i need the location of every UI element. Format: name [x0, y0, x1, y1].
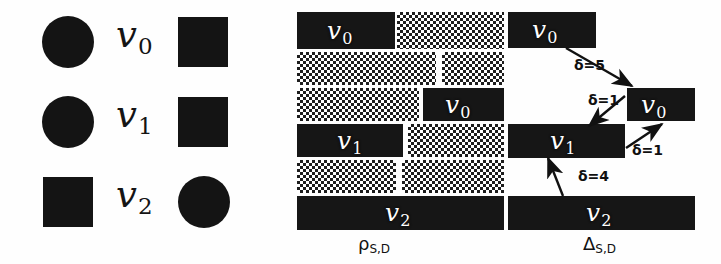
bar-label-text: v	[550, 126, 564, 155]
bar-label-subscript: 2	[400, 211, 410, 230]
rho-bar-segment	[397, 12, 504, 49]
delta-label-arrow-v1-to-v0right: δ=1	[632, 142, 663, 158]
rho-caption-symbol: ρ	[358, 233, 369, 254]
legend-item-label: v1	[116, 96, 153, 138]
bar-label-text: v	[385, 198, 399, 227]
rho-bar-segment	[297, 52, 436, 85]
arrow-v2-to-v1	[548, 158, 563, 196]
bar-label-text: v	[532, 15, 546, 44]
delta-bar-v0-right: v0	[627, 88, 695, 121]
bar-label: v0	[641, 92, 666, 121]
rho-bar-segment	[442, 52, 504, 85]
bar-label: v0	[532, 17, 557, 46]
bar-label-text: v	[586, 198, 600, 227]
delta-caption-subscript: S,D	[595, 242, 616, 256]
delta-label-arrow-v0right-to-v1: δ=1	[588, 92, 619, 108]
figure-root: v0 v1 v2 v0 v0 v1	[0, 0, 721, 264]
delta-label-arrow-v0top-to-v0right: δ=5	[574, 57, 605, 73]
rho-caption-subscript: S,D	[369, 242, 390, 256]
bar-label-text: v	[641, 90, 655, 119]
rho-bar-segment	[408, 124, 504, 157]
bar-label: v2	[586, 200, 611, 229]
bar-label-subscript: 1	[565, 139, 575, 158]
bar-label-subscript: 0	[342, 29, 352, 48]
rho-bar-segment: v0	[297, 12, 395, 49]
legend-label-text: v	[116, 13, 137, 56]
delta-caption-symbol: Δ	[583, 233, 595, 254]
legend-row: v1	[0, 88, 250, 162]
rho-bar-segment: v2	[297, 196, 504, 230]
legend-row: v2	[0, 168, 250, 242]
bar-label-text: v	[337, 126, 351, 155]
bar-label-subscript: 0	[656, 103, 666, 122]
delta-bar-v1-middle: v1	[508, 124, 625, 158]
legend-label-subscript: 0	[138, 33, 153, 59]
filled-square-icon	[178, 97, 228, 147]
bar-label: v1	[337, 128, 362, 157]
legend-label-subscript: 2	[138, 193, 153, 219]
delta-label-arrow-v2-to-v1: δ=4	[578, 168, 609, 184]
bar-label: v0	[327, 18, 352, 47]
filled-circle-icon	[42, 16, 94, 68]
vertex-shape-legend-panel: v0 v1 v2	[0, 0, 250, 264]
bar-label: v1	[550, 128, 575, 157]
rho-s-d-caption: ρS,D	[358, 233, 390, 256]
bar-label: v0	[445, 92, 470, 121]
legend-label-subscript: 1	[138, 113, 153, 139]
delta-bar-v0-top: v0	[508, 12, 596, 48]
rho-bar-segment	[297, 88, 419, 121]
bar-label-text: v	[445, 90, 459, 119]
bar-label-subscript: 2	[601, 211, 611, 230]
delta-s-d-caption: ΔS,D	[583, 233, 616, 256]
delta-bar-v2-bottom: v2	[508, 196, 695, 230]
filled-square-icon	[178, 17, 228, 67]
filled-circle-icon	[42, 96, 94, 148]
rho-bar-segment: v0	[423, 88, 504, 121]
filled-circle-icon	[178, 176, 230, 228]
legend-row: v0	[0, 8, 250, 82]
legend-item-label: v0	[116, 16, 153, 58]
bar-label-subscript: 1	[352, 139, 362, 158]
rho-bar-segment	[297, 160, 396, 193]
filled-square-icon	[43, 177, 93, 227]
legend-label-text: v	[116, 173, 137, 216]
bar-label-subscript: 0	[460, 103, 470, 122]
bar-label-subscript: 0	[547, 28, 557, 47]
bar-label-text: v	[327, 16, 341, 45]
legend-label-text: v	[116, 93, 137, 136]
legend-item-label: v2	[116, 176, 153, 218]
rho-bar-segment	[402, 160, 504, 193]
rho-bar-segment: v1	[297, 124, 403, 157]
bar-label: v2	[385, 200, 410, 229]
